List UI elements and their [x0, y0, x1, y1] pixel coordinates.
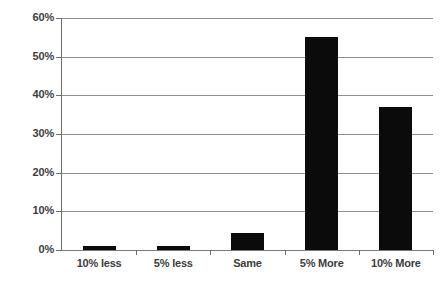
gridline [62, 57, 433, 58]
y-tick-label: 0% [6, 244, 54, 255]
x-tick-mark [433, 250, 434, 255]
y-tick-mark [56, 250, 61, 251]
bar [305, 37, 338, 250]
bar [379, 107, 412, 250]
y-tick-mark [56, 211, 61, 212]
y-tick-label: 40% [6, 89, 54, 100]
y-tick-mark [56, 134, 61, 135]
x-tick-mark [359, 250, 360, 255]
gridline [62, 173, 433, 174]
x-tick-label: Same [210, 258, 284, 269]
x-axis-labels: 10% less5% lessSame5% More10% More [62, 258, 433, 278]
gridline [62, 95, 433, 96]
x-tick-mark [210, 250, 211, 255]
y-tick-label: 10% [6, 205, 54, 216]
y-tick-label: 60% [6, 12, 54, 23]
plot-area [62, 18, 433, 250]
x-tick-label: 5% More [285, 258, 359, 269]
y-tick-label: 50% [6, 51, 54, 62]
y-tick-mark [56, 173, 61, 174]
y-tick-mark [56, 95, 61, 96]
bar-chart: 0%10%20%30%40%50%60% 10% less5% lessSame… [0, 0, 444, 286]
y-tick-label: 20% [6, 167, 54, 178]
x-tick-label: 10% less [62, 258, 136, 269]
gridline [62, 250, 433, 251]
x-tick-mark [136, 250, 137, 255]
gridline [62, 18, 433, 19]
bar [231, 233, 264, 250]
bar [83, 246, 116, 250]
bar [157, 246, 190, 250]
gridline [62, 134, 433, 135]
y-tick-mark [56, 57, 61, 58]
y-tick-mark [56, 18, 61, 19]
gridline [62, 211, 433, 212]
y-tick-label: 30% [6, 128, 54, 139]
x-tick-mark [285, 250, 286, 255]
x-tick-label: 10% More [359, 258, 433, 269]
x-tick-label: 5% less [136, 258, 210, 269]
y-axis-labels: 0%10%20%30%40%50%60% [0, 0, 54, 286]
